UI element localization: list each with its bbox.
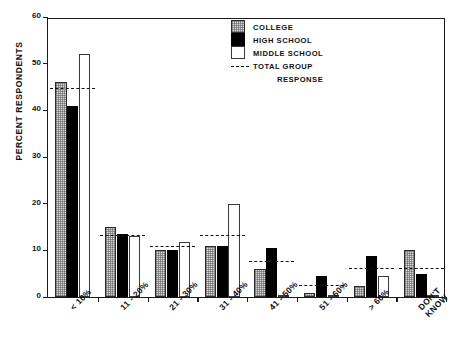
legend-item-total-group-line2: RESPONSE — [231, 72, 436, 85]
legend-swatch-college — [231, 20, 245, 33]
bar-high-school — [266, 248, 277, 297]
total-group-response-line — [399, 268, 444, 269]
x-tick-mark — [247, 297, 248, 302]
bar-high-school — [117, 234, 128, 297]
y-tick-mark — [43, 17, 48, 18]
legend-item-college: COLLEGE — [231, 20, 436, 33]
bar-college — [105, 227, 116, 297]
legend-item-middle-school: MIDDLE SCHOOL — [231, 46, 436, 59]
legend-label-high-school: HIGH SCHOOL — [253, 36, 312, 45]
bar-college — [155, 250, 166, 297]
y-tick-label: 30 — [20, 151, 41, 160]
bar-group — [98, 19, 148, 297]
bar-group — [48, 19, 98, 297]
bar-college — [254, 269, 265, 297]
legend-item-high-school: HIGH SCHOOL — [231, 33, 436, 46]
bar-college — [55, 82, 66, 297]
chart-legend: COLLEGE HIGH SCHOOL MIDDLE SCHOOL TOTAL … — [231, 20, 436, 85]
legend-swatch-high-school — [231, 33, 245, 46]
bar-college — [404, 250, 415, 297]
total-group-response-line — [349, 268, 394, 269]
total-group-response-line — [150, 246, 195, 247]
y-tick-label: 0 — [20, 291, 41, 300]
bar-college — [304, 293, 315, 297]
y-tick-label: 40 — [20, 104, 41, 113]
bar-high-school — [366, 256, 377, 297]
total-group-response-line — [50, 88, 95, 89]
y-tick-label: 60 — [20, 11, 41, 20]
bar-chart: PERCENT RESPONDENTS 0102030405060 COLLEG… — [0, 0, 457, 352]
x-tick-mark — [297, 297, 298, 302]
legend-label-response-text: RESPONSE — [277, 75, 323, 84]
bar-high-school — [316, 276, 327, 297]
y-tick-label: 10 — [20, 244, 41, 253]
bar-high-school — [217, 246, 228, 297]
bar-high-school — [167, 250, 178, 297]
legend-label-college: COLLEGE — [253, 23, 293, 32]
x-tick-mark — [347, 297, 348, 302]
bar-middle-school — [79, 54, 90, 297]
y-tick-label: 50 — [20, 58, 41, 67]
x-tick-mark — [148, 297, 149, 302]
x-tick-mark — [98, 297, 99, 302]
bar-high-school — [416, 274, 427, 297]
bar-college — [205, 246, 216, 297]
legend-item-total-group: TOTAL GROUP — [231, 59, 436, 72]
legend-label-total-group: TOTAL GROUP — [253, 62, 313, 71]
y-tick-label: 20 — [20, 198, 41, 207]
total-group-response-line — [100, 235, 145, 236]
legend-swatch-middle-school — [231, 46, 245, 59]
x-tick-mark — [197, 297, 198, 302]
bar-high-school — [67, 106, 78, 297]
legend-label-middle-school: MIDDLE SCHOOL — [253, 49, 323, 58]
total-group-response-line — [249, 261, 294, 262]
legend-dashed-line-icon — [231, 66, 249, 67]
bar-group — [148, 19, 198, 297]
bar-college — [354, 286, 365, 297]
x-tick-mark — [396, 297, 397, 302]
total-group-response-line — [200, 235, 245, 236]
